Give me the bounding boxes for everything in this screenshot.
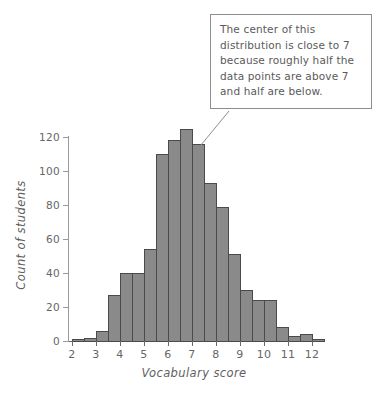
x-tick-label-4: 4	[108, 348, 132, 361]
histogram-figure: 020406080100120 23456789101112 Vocabular…	[0, 0, 387, 393]
x-tick-8	[216, 341, 217, 346]
bar	[312, 339, 325, 342]
x-tick-label-11: 11	[276, 348, 300, 361]
x-tick-label-12: 12	[300, 348, 324, 361]
x-tick-label-9: 9	[228, 348, 252, 361]
callout-box: The center of this distribution is close…	[210, 14, 372, 109]
x-tick-label-8: 8	[204, 348, 228, 361]
x-tick-label-7: 7	[180, 348, 204, 361]
x-tick-label-10: 10	[252, 348, 276, 361]
x-tick-11	[288, 341, 289, 346]
x-tick-label-6: 6	[156, 348, 180, 361]
x-tick-label-5: 5	[132, 348, 156, 361]
callout-text: The center of this distribution is close…	[220, 22, 362, 100]
x-tick-12	[312, 341, 313, 346]
x-tick-5	[144, 341, 145, 346]
y-axis-title: Count of students	[14, 175, 28, 295]
x-tick-3	[96, 341, 97, 346]
x-axis-title: Vocabulary score	[68, 366, 320, 380]
x-tick-7	[192, 341, 193, 346]
x-tick-4	[120, 341, 121, 346]
x-tick-2	[72, 341, 73, 346]
x-tick-9	[240, 341, 241, 346]
x-tick-10	[264, 341, 265, 346]
x-tick-6	[168, 341, 169, 346]
x-tick-label-3: 3	[84, 348, 108, 361]
x-tick-label-2: 2	[60, 348, 84, 361]
